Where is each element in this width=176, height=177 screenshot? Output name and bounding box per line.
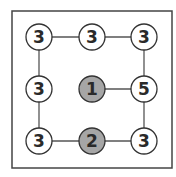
node-r1c1: 1 <box>79 76 105 102</box>
node-r2c0: 3 <box>26 128 52 154</box>
node-label: 3 <box>138 131 150 151</box>
node-label: 3 <box>33 79 45 99</box>
node-label: 3 <box>33 27 45 47</box>
node-r0c1: 3 <box>79 24 105 50</box>
node-r0c0: 3 <box>26 24 52 50</box>
node-r2c1: 2 <box>79 128 105 154</box>
node-r0c2: 3 <box>131 24 157 50</box>
node-r1c2: 5 <box>131 76 157 102</box>
graph-diagram: 333315323 <box>0 0 176 177</box>
node-r2c2: 3 <box>131 128 157 154</box>
node-label: 3 <box>86 27 98 47</box>
node-label: 3 <box>33 131 45 151</box>
node-label: 2 <box>86 131 98 151</box>
node-r1c0: 3 <box>26 76 52 102</box>
nodes-group: 333315323 <box>26 24 157 154</box>
node-label: 5 <box>138 79 150 99</box>
node-label: 1 <box>86 79 98 99</box>
node-label: 3 <box>138 27 150 47</box>
